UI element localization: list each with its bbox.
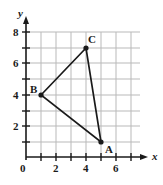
y-tick-label-4: 4 bbox=[13, 90, 19, 101]
y-tick-label-2: 2 bbox=[13, 121, 19, 132]
origin-label: 0 bbox=[20, 163, 26, 174]
vertex-label-c: C bbox=[88, 34, 96, 45]
coordinate-plane-figure: y x 0 2 4 6 2 4 6 8 A B C bbox=[0, 0, 163, 185]
vertex-point-b bbox=[38, 92, 43, 97]
vertex-point-a bbox=[98, 139, 103, 144]
x-tick-label-4: 4 bbox=[83, 163, 89, 174]
plot-canvas bbox=[0, 0, 163, 185]
y-tick-label-6: 6 bbox=[13, 58, 19, 69]
x-tick-label-6: 6 bbox=[113, 163, 119, 174]
vertex-point-c bbox=[83, 45, 88, 50]
y-tick-label-8: 8 bbox=[13, 27, 19, 38]
x-tick-label-2: 2 bbox=[53, 163, 59, 174]
y-axis-label: y bbox=[18, 8, 23, 19]
x-axis-label: x bbox=[152, 151, 158, 162]
y-axis-arrow bbox=[23, 16, 29, 24]
x-axis-arrow bbox=[140, 154, 148, 160]
vertex-label-b: B bbox=[30, 84, 37, 95]
vertex-label-a: A bbox=[105, 144, 113, 155]
